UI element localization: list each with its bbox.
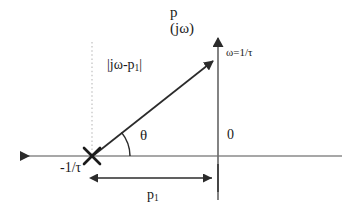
vector-magnitude-prefix: |jω-p [107,57,135,72]
pole-zero-diagram: p (jω) ω=1/τ |jω-p1| θ 0 -1/τ p1 [0,0,350,219]
frequency-point-label: ω=1/τ [226,47,252,59]
vertical-axis-label-line2: (jω) [170,21,194,37]
angle-arc [122,132,131,156]
pole-to-frequency-vector [94,61,213,155]
distance-prefix: p [147,187,154,202]
vector-magnitude-subscript: 1 [135,63,140,73]
vector-magnitude-suffix: | [139,57,142,72]
distance-label: p1 [147,188,159,203]
vertical-axis-label-line1: p [170,4,178,20]
vertical-axis-label: p (jω) [170,5,194,37]
vector-magnitude-label: |jω-p1| [107,58,142,73]
origin-label: 0 [227,128,234,143]
angle-label: θ [140,128,147,144]
pole-position-label: -1/τ [60,161,81,176]
distance-subscript: 1 [154,193,159,203]
